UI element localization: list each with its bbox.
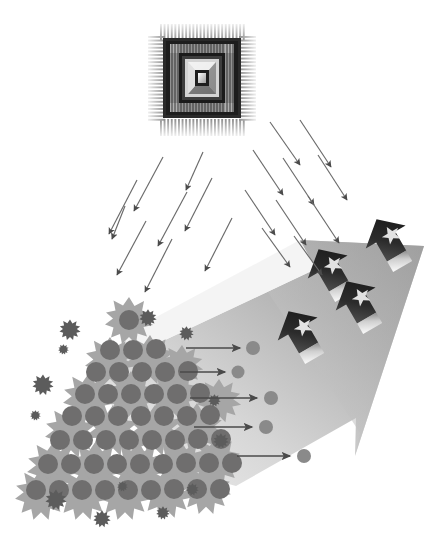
illustration-svg: [0, 0, 446, 547]
illustration-canvas: Microprocessor distributing pellets onto…: [0, 0, 446, 547]
